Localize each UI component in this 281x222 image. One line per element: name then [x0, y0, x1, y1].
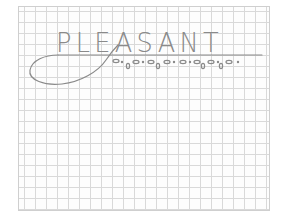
- loop-flourish: [30, 45, 118, 84]
- drop-ornaments: [113, 59, 239, 68]
- flourish-drawing: [0, 0, 281, 222]
